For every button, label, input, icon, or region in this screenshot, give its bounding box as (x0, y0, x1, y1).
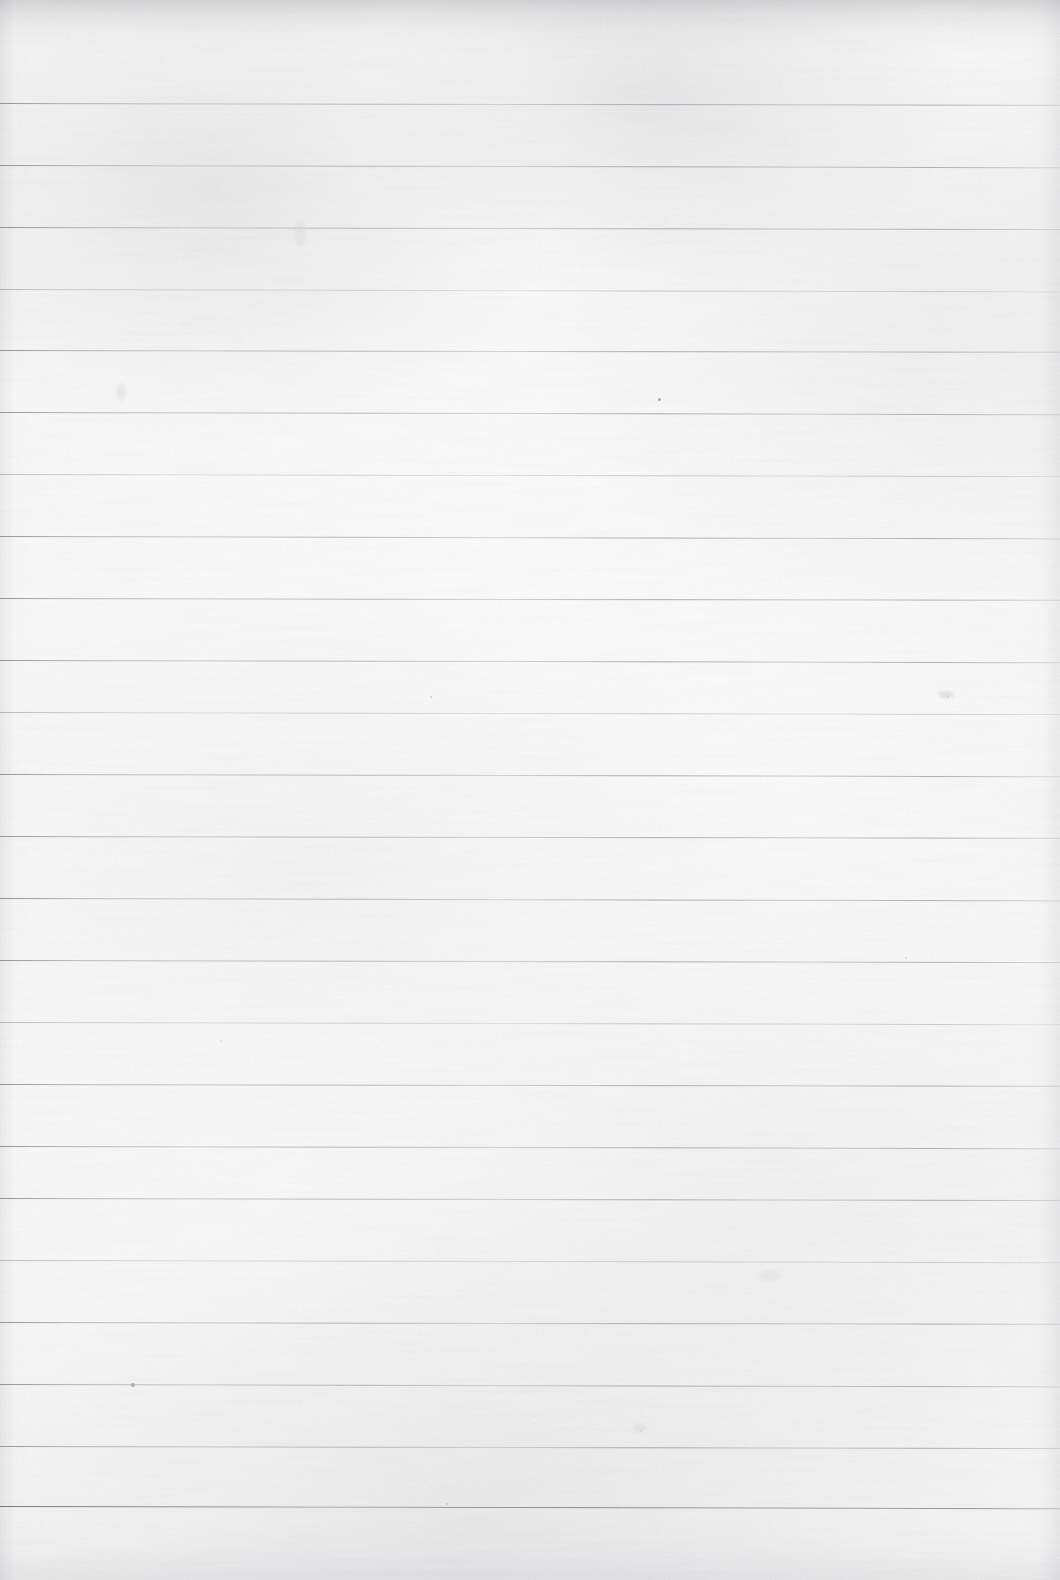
ruled-line-ink (0, 1260, 1060, 1263)
ruled-line-ink (0, 898, 1060, 901)
ruled-line-ink (0, 712, 1060, 715)
ruled-line-ink (0, 960, 1060, 963)
ruled-line (0, 474, 1060, 477)
ruled-line-ink (0, 660, 1060, 663)
ruled-lines-group (0, 0, 1060, 1580)
ruled-line (0, 289, 1060, 292)
ruled-line-ink (0, 1506, 1060, 1509)
ruled-line-ink (0, 412, 1060, 415)
ruled-line-ink (0, 774, 1060, 777)
ruled-line-ink (0, 1198, 1060, 1201)
ruled-line-ink (0, 598, 1060, 601)
ruled-line (0, 536, 1060, 539)
ruled-line (0, 1146, 1060, 1149)
ruled-line-ink (0, 350, 1060, 353)
ruled-line (0, 412, 1060, 415)
scanned-page (0, 0, 1060, 1580)
ruled-line (0, 1084, 1060, 1087)
ruled-line-ink (0, 1384, 1060, 1387)
ruled-line-ink (0, 536, 1060, 539)
ruled-line (0, 898, 1060, 901)
ruled-line-ink (0, 1322, 1060, 1325)
ruled-line-ink (0, 1022, 1060, 1025)
ruled-line (0, 712, 1060, 715)
ruled-line (0, 1198, 1060, 1201)
ruled-line (0, 1022, 1060, 1025)
ruled-line-ink (0, 103, 1060, 106)
ruled-line-ink (0, 165, 1060, 168)
ruled-line (0, 1446, 1060, 1449)
ruled-line (0, 1384, 1060, 1387)
ruled-line-ink (0, 1084, 1060, 1087)
ruled-line (0, 1260, 1060, 1263)
ruled-line (0, 1506, 1060, 1509)
ruled-line (0, 227, 1060, 230)
ruled-line (0, 960, 1060, 963)
ruled-line (0, 598, 1060, 601)
ruled-line (0, 1322, 1060, 1325)
ruled-line (0, 836, 1060, 839)
ruled-line (0, 774, 1060, 777)
ruled-line-ink (0, 1446, 1060, 1449)
ruled-line-ink (0, 474, 1060, 477)
ruled-line-ink (0, 1146, 1060, 1149)
ruled-line-ink (0, 227, 1060, 230)
ruled-line (0, 350, 1060, 353)
ruled-line-ink (0, 289, 1060, 292)
ruled-line (0, 165, 1060, 168)
ruled-line (0, 103, 1060, 106)
ruled-line (0, 660, 1060, 663)
ruled-line-ink (0, 836, 1060, 839)
